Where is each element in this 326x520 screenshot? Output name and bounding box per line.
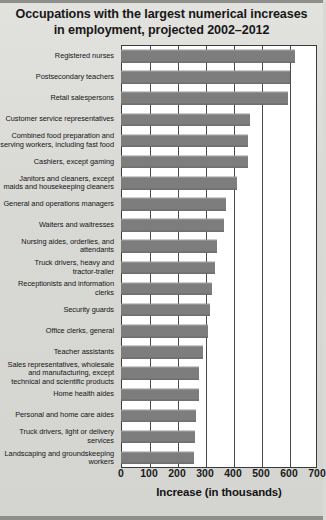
bar-row: Landscaping and groundskeepingworkers — [0, 447, 323, 469]
bar-cell — [118, 257, 323, 279]
bar — [121, 283, 212, 296]
bar-row-label: Truck drivers, light or delivery service… — [0, 428, 118, 445]
x-tick-label: 300 — [196, 468, 213, 479]
bar-row: Receptionists and information clerks — [0, 278, 323, 300]
bar — [121, 198, 226, 211]
bar-row: Office clerks, general — [0, 320, 323, 342]
bar-cell — [118, 66, 323, 88]
bar — [121, 92, 288, 105]
bar-row-label-line: Teacher assistants — [54, 347, 114, 356]
bar — [121, 431, 195, 444]
bar-row-label-line: Customer service representatives — [6, 114, 114, 123]
bar — [121, 177, 237, 190]
bar — [121, 50, 295, 63]
bar-row: Retail salespersons — [0, 87, 323, 109]
top-rule — [0, 0, 323, 3]
bottom-rule — [0, 516, 323, 520]
bar-row-label-line: Cashiers, except gaming — [34, 157, 114, 166]
bar-row-label: Landscaping and groundskeepingworkers — [0, 450, 118, 467]
bar-row-label: Truck drivers, heavy andtractor-trailer — [0, 259, 118, 276]
bar-cell — [118, 426, 323, 448]
bar-row: Nursing aides, orderlies, andattendants — [0, 235, 323, 257]
bar-cell — [118, 235, 323, 257]
chart-title-line-1: Occupations with the largest numerical i… — [8, 7, 315, 23]
bar-row-label-line: maids and housekeeping cleaners — [3, 182, 114, 191]
bar-row-label: Teacher assistants — [0, 348, 118, 356]
bar-row-label: Waiters and waitresses — [0, 221, 118, 229]
bar-row-label: Customer service representatives — [0, 115, 118, 123]
bar-row-label: Nursing aides, orderlies, andattendants — [0, 238, 118, 255]
bar-cell — [118, 320, 323, 342]
bar-row-label-line: workers — [88, 457, 114, 466]
bar-cell — [118, 108, 323, 130]
bar — [121, 304, 210, 317]
bar-row: Truck drivers, light or delivery service… — [0, 426, 323, 448]
bar-row-label: Registered nurses — [0, 52, 118, 60]
bar-cell — [118, 383, 323, 405]
bar-row: Postsecondary teachers — [0, 66, 323, 88]
bar-cell — [118, 362, 323, 384]
bar — [121, 325, 208, 338]
bar-row-label-line: Receptionists and information clerks — [18, 279, 114, 296]
x-tick-label: 100 — [140, 468, 157, 479]
bar-cell — [118, 214, 323, 236]
bar-row-label-line: Personal and home care aides — [15, 410, 114, 419]
bar — [121, 156, 248, 169]
bar — [121, 134, 248, 147]
x-tick-label: 0 — [118, 468, 124, 479]
bar-cell — [118, 151, 323, 173]
bar — [121, 113, 250, 126]
bar-cell — [118, 130, 323, 152]
bar-row: Truck drivers, heavy andtractor-trailer — [0, 257, 323, 279]
bar-row-label: Personal and home care aides — [0, 411, 118, 419]
bar-cell — [118, 45, 323, 67]
bar-row-label-line: Truck drivers, light or delivery service… — [19, 427, 114, 444]
bar-row-label-line: General and operations managers — [3, 199, 114, 208]
bar — [121, 240, 217, 253]
chart-title-line-2: in employment, projected 2002–2012 — [8, 23, 315, 39]
x-axis-title: Increase (in thousands) — [121, 486, 317, 498]
bar-cell — [118, 87, 323, 109]
bar-row-label: Office clerks, general — [0, 327, 118, 335]
bar-row: Customer service representatives — [0, 108, 323, 130]
bar-row-label-line: tractor-trailer — [73, 267, 114, 276]
bar — [121, 346, 203, 359]
bar-row: Personal and home care aides — [0, 405, 323, 427]
bar-row: Home health aides — [0, 383, 323, 405]
bar-row-label-line: serving workers, including fast food — [0, 140, 114, 149]
bar-row-label-line: Registered nurses — [55, 51, 114, 60]
bar-row-label: Sales representatives, wholesaleand manu… — [0, 361, 118, 386]
bar-row-label: Home health aides — [0, 390, 118, 398]
bar-row-label-line: Home health aides — [53, 389, 114, 398]
bar-row-label-line: Office clerks, general — [46, 326, 114, 335]
bar-row-label: General and operations managers — [0, 200, 118, 208]
bar-row-label-line: attendants — [80, 245, 114, 254]
bar-row-label: Security guards — [0, 306, 118, 314]
bar-row-label: Postsecondary teachers — [0, 73, 118, 81]
bar-row: General and operations managers — [0, 193, 323, 215]
bar-row: Registered nurses — [0, 45, 323, 67]
bar — [121, 388, 199, 401]
bar-row-label-line: Security guards — [63, 305, 114, 314]
bar — [121, 71, 290, 84]
x-tick-label: 700 — [308, 468, 325, 479]
x-tick-label: 500 — [252, 468, 269, 479]
bar-row: Janitors and cleaners, exceptmaids and h… — [0, 172, 323, 194]
bar-row-label: Combined food preparation andserving wor… — [0, 132, 118, 149]
bar-row-label: Janitors and cleaners, exceptmaids and h… — [0, 175, 118, 192]
bar-row-label: Cashiers, except gaming — [0, 158, 118, 166]
x-tick-label: 200 — [168, 468, 185, 479]
bar-cell — [118, 447, 323, 469]
bar-row-label: Retail salespersons — [0, 94, 118, 102]
bar-row-label-line: Postsecondary teachers — [36, 72, 114, 81]
bar-row-label: Receptionists and information clerks — [0, 280, 118, 297]
bar — [121, 409, 196, 422]
bar-row: Security guards — [0, 299, 323, 321]
bar — [121, 452, 194, 465]
bar-cell — [118, 341, 323, 363]
bar-row: Sales representatives, wholesaleand manu… — [0, 362, 323, 384]
x-tick-label: 600 — [280, 468, 297, 479]
bar-cell — [118, 405, 323, 427]
bar-row-label-line: Retail salespersons — [50, 93, 114, 102]
